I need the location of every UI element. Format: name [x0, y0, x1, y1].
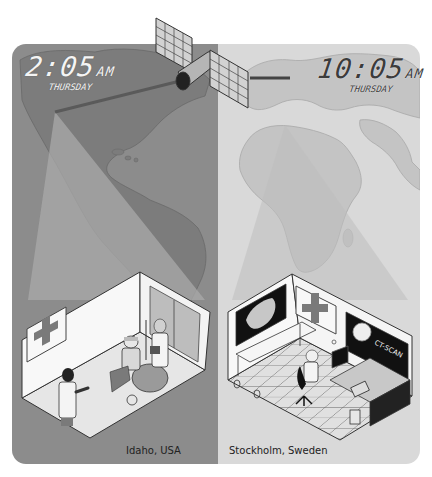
clock-day-left: THURSDAY	[25, 82, 115, 92]
clock-day-right: THURSDAY	[317, 84, 424, 94]
clock-ampm-left: AM	[96, 64, 116, 79]
clock-time-right: 10:05	[316, 55, 406, 82]
clock-time-left: 2:05	[24, 53, 97, 80]
location-label-idaho: Idaho, USA	[126, 445, 181, 456]
clock-idaho: 2:05AM THURSDAY	[26, 53, 115, 92]
clock-ampm-right: AM	[405, 66, 425, 81]
location-label-stockholm: Stockholm, Sweden	[229, 445, 328, 456]
clock-stockholm: 10:05AM THURSDAY	[318, 55, 424, 94]
